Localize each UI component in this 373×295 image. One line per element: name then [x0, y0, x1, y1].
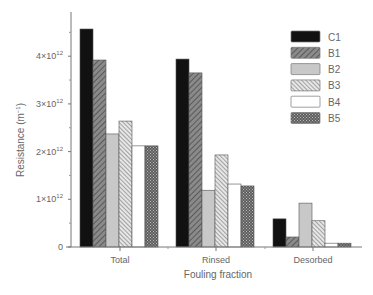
y-axis-title: Resistance (m−1)	[15, 103, 26, 177]
bar-c1-desorbed	[273, 219, 286, 247]
bar-b5-rinsed	[241, 186, 254, 247]
legend-swatch-b3	[291, 80, 320, 91]
bar-b1-rinsed	[189, 73, 202, 247]
legend-swatch-b4	[291, 96, 320, 107]
x-ticks: TotalRinsedDesorbed	[110, 247, 332, 265]
x-tick-label-total: Total	[110, 255, 129, 265]
legend-label-b5: B5	[328, 113, 341, 124]
legend-label-b2: B2	[328, 64, 341, 75]
bar-b2-total	[106, 134, 119, 247]
legend-swatch-b1	[291, 47, 320, 58]
legend-swatch-b5	[291, 113, 320, 124]
bar-b5-desorbed	[338, 243, 351, 247]
y-tick-label: 2×1012	[36, 146, 64, 157]
legend-swatch-c1	[291, 31, 320, 42]
bar-b1-total	[93, 60, 106, 247]
y-tick-label: 1×1012	[36, 193, 64, 204]
bar-b3-total	[119, 121, 132, 247]
legend-label-b1: B1	[328, 48, 341, 59]
legend-label-b4: B4	[328, 97, 341, 108]
bar-b3-rinsed	[215, 155, 228, 247]
bar-c1-rinsed	[176, 59, 189, 247]
bars-group	[80, 29, 351, 247]
legend-swatch-b2	[291, 64, 320, 75]
bar-b4-total	[132, 146, 145, 247]
y-ticks: 01×10122×10123×10124×1012	[36, 32, 71, 252]
y-tick-label: 4×1012	[36, 50, 64, 61]
bar-b4-desorbed	[325, 243, 338, 247]
bar-b2-rinsed	[202, 190, 215, 247]
y-tick-label: 3×1012	[36, 98, 64, 109]
legend-label-b3: B3	[328, 80, 341, 91]
bar-b3-desorbed	[312, 221, 325, 247]
bar-b4-rinsed	[228, 184, 241, 247]
x-tick-label-rinsed: Rinsed	[202, 255, 230, 265]
bar-b1-desorbed	[286, 237, 299, 247]
legend-label-c1: C1	[328, 32, 341, 43]
bar-b2-desorbed	[299, 203, 312, 247]
legend: C1B1B2B3B4B5	[291, 31, 341, 124]
bar-b5-total	[145, 146, 158, 247]
bar-chart: 01×10122×10123×10124×1012 TotalRinsedDes…	[0, 0, 373, 295]
x-tick-label-desorbed: Desorbed	[293, 255, 332, 265]
bar-c1-total	[80, 29, 93, 247]
x-axis-title: Fouling fraction	[184, 269, 252, 280]
y-tick-label: 0	[58, 242, 63, 252]
